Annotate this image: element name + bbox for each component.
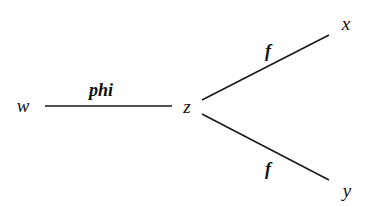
diagram-canvas: phi f f w z x y — [0, 0, 374, 206]
node-x: x — [341, 13, 351, 34]
edge-label-z-y: f — [265, 159, 273, 179]
node-w: w — [17, 95, 30, 116]
node-y: y — [341, 180, 352, 201]
node-z: z — [182, 96, 191, 117]
edge-label-w-z: phi — [87, 80, 113, 100]
edge-label-z-x: f — [265, 41, 273, 61]
